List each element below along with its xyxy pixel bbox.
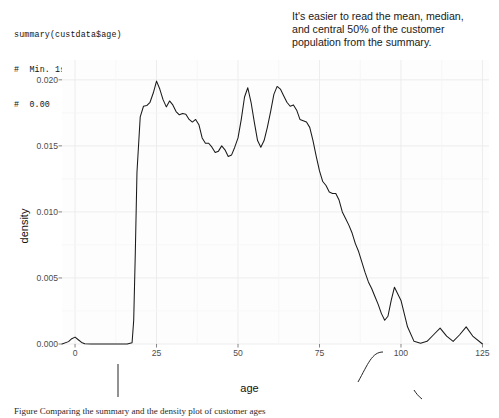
annotation-summary-note: It's easier to read the mean, median, an… [292, 10, 464, 50]
x-tick-label: 100 [381, 348, 421, 358]
density-plot: density age 0.0000.0050.0100.0150.020 02… [0, 52, 499, 402]
y-tick-label: 0.000 [12, 339, 58, 349]
y-tick-label: 0.005 [12, 273, 58, 283]
x-tick-label: 50 [218, 348, 258, 358]
annotation-summary-line-1: It's easier to read the mean, median, [292, 10, 464, 23]
y-tick-label: 0.020 [12, 75, 58, 85]
x-tick-label: 25 [137, 348, 177, 358]
y-tick-label: 0.015 [12, 141, 58, 151]
annotation-summary-line-3: population from the summary. [292, 36, 464, 49]
x-axis-label: age [0, 382, 499, 394]
y-axis-label: density [18, 196, 30, 256]
annotation-summary-line-2: and central 50% of the customer [292, 23, 464, 36]
console-line-command: summary(custdata$age) [14, 29, 294, 41]
x-tick-label: 75 [300, 348, 340, 358]
x-tick-label: 0 [55, 348, 95, 358]
x-tick-label: 125 [462, 348, 499, 358]
figure-caption: Figure Comparing the summary and the den… [14, 406, 474, 418]
y-tick-label: 0.010 [12, 207, 58, 217]
